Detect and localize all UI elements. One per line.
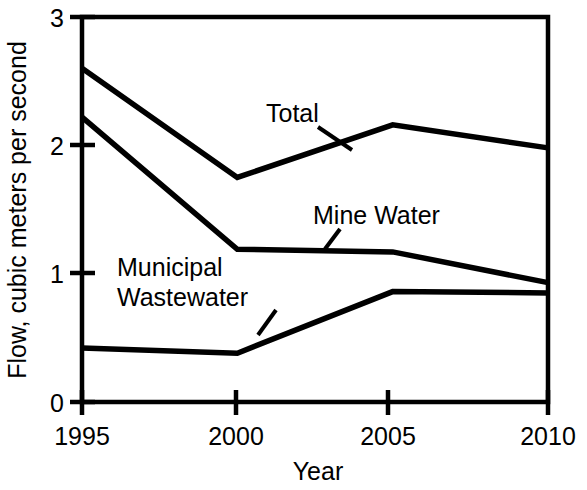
y-axis-tick-label-3: 3: [50, 4, 64, 32]
y-axis-title: Flow, cubic meters per second: [3, 41, 31, 379]
line-chart: 3 2 1 0 1995 2000 2005 2010 Flow, cubic …: [0, 0, 587, 490]
x-axis-title: Year: [293, 457, 344, 485]
x-axis-tick-label-1995: 1995: [54, 422, 110, 450]
x-axis-tick-label-2005: 2005: [360, 422, 416, 450]
y-axis-tick-label-2: 2: [50, 132, 64, 160]
series-label-municipal-wastewater-line2: Wastewater: [117, 283, 248, 311]
series-label-mine-water: Mine Water: [313, 201, 440, 229]
chart-figure: 3 2 1 0 1995 2000 2005 2010 Flow, cubic …: [0, 0, 587, 490]
x-axis-tick-label-2010: 2010: [520, 422, 576, 450]
series-label-total: Total: [266, 99, 319, 127]
y-axis-tick-label-1: 1: [50, 260, 64, 288]
y-axis-tick-label-0: 0: [50, 389, 64, 417]
x-axis-tick-label-2000: 2000: [208, 422, 264, 450]
series-label-municipal-wastewater-line1: Municipal: [117, 253, 223, 281]
